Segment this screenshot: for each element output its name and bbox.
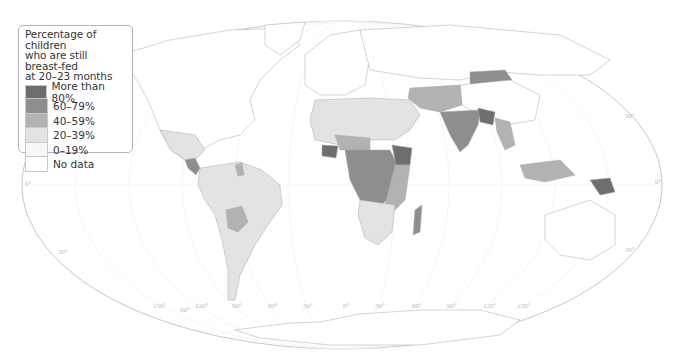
legend-label: No data bbox=[53, 158, 94, 170]
lon-label-90w: 90° bbox=[232, 302, 242, 310]
lon-label-0: 0° bbox=[343, 302, 350, 310]
legend-swatch bbox=[25, 157, 48, 172]
legend-swatch bbox=[25, 85, 47, 100]
legend-item: 20–39% bbox=[25, 128, 126, 143]
legend-label: 40–59% bbox=[53, 115, 95, 127]
legend-swatch bbox=[25, 143, 48, 158]
lon-label-30e: 30° bbox=[375, 302, 385, 310]
lon-label-120e: 120° bbox=[483, 302, 497, 310]
lat-label-0-left: 0° bbox=[25, 180, 32, 188]
lon-label-90e: 90° bbox=[447, 302, 457, 310]
legend-swatch bbox=[25, 128, 48, 143]
lon-label-150w: 150° bbox=[153, 302, 167, 310]
west-africa bbox=[322, 145, 338, 158]
lon-label-120w: 120° bbox=[195, 302, 209, 310]
legend-swatch bbox=[25, 99, 48, 114]
lon-label-30w: 30° bbox=[303, 302, 313, 310]
lat-label-30-left: 30° bbox=[58, 248, 68, 256]
lat-label-0-right: 0° bbox=[655, 178, 662, 186]
lat-label-60s: 60° bbox=[180, 306, 190, 314]
legend-label: 0–19% bbox=[53, 144, 88, 156]
lon-label-60e: 60° bbox=[412, 302, 422, 310]
legend-item: More than 80% bbox=[25, 85, 126, 100]
legend-item: No data bbox=[25, 157, 126, 172]
legend-item: 0–19% bbox=[25, 143, 126, 158]
lon-label-60w: 60° bbox=[268, 302, 278, 310]
legend-title-line: Percentage of children bbox=[25, 29, 126, 50]
legend: Percentage of children who are still bre… bbox=[18, 25, 133, 153]
legend-label: 60–79% bbox=[53, 100, 95, 112]
legend-item: 40–59% bbox=[25, 114, 126, 129]
lat-label-30-right-s: 30° bbox=[625, 246, 635, 254]
lat-label-30-right-n: 30° bbox=[625, 112, 635, 120]
legend-title-line: who are still breast-fed bbox=[25, 50, 126, 71]
legend-label: 20–39% bbox=[53, 129, 95, 141]
legend-items: More than 80% 60–79% 40–59% 20–39% 0–19%… bbox=[25, 85, 126, 172]
legend-title: Percentage of children who are still bre… bbox=[25, 29, 126, 82]
legend-swatch bbox=[25, 114, 48, 129]
lon-label-150e: 150° bbox=[517, 302, 531, 310]
